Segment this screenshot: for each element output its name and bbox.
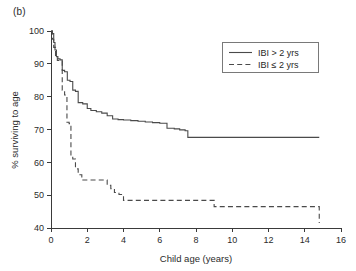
x-tick-label: 8 [193, 235, 198, 245]
y-tick-label: 100 [29, 26, 44, 36]
y-tick-label: 60 [34, 158, 44, 168]
x-tick-label: 10 [227, 235, 237, 245]
y-tick-label: 50 [34, 190, 44, 200]
figure-panel: (b) 0246810121416 405060708090100 Child … [0, 0, 356, 271]
y-axis-title: % surviving to age [9, 91, 20, 169]
y-tick-label: 80 [34, 92, 44, 102]
x-tick-label: 14 [300, 235, 310, 245]
y-tick-label: 40 [34, 223, 44, 233]
legend-label-series-1: IBI ≤ 2 yrs [258, 60, 299, 70]
y-axis-ticks: 405060708090100 [29, 26, 51, 233]
survival-chart: 0246810121416 405060708090100 Child age … [0, 0, 356, 271]
y-tick-label: 90 [34, 59, 44, 69]
x-tick-label: 2 [85, 235, 90, 245]
x-tick-label: 6 [157, 235, 162, 245]
x-tick-label: 16 [336, 235, 346, 245]
x-axis-ticks: 0246810121416 [48, 228, 346, 245]
x-tick-label: 0 [48, 235, 53, 245]
x-axis-title: Child age (years) [160, 253, 232, 264]
y-tick-label: 70 [34, 125, 44, 135]
legend: IBI > 2 yrs IBI ≤ 2 yrs [223, 43, 319, 73]
x-tick-label: 12 [263, 235, 273, 245]
legend-label-series-0: IBI > 2 yrs [258, 48, 299, 58]
x-tick-label: 4 [121, 235, 126, 245]
